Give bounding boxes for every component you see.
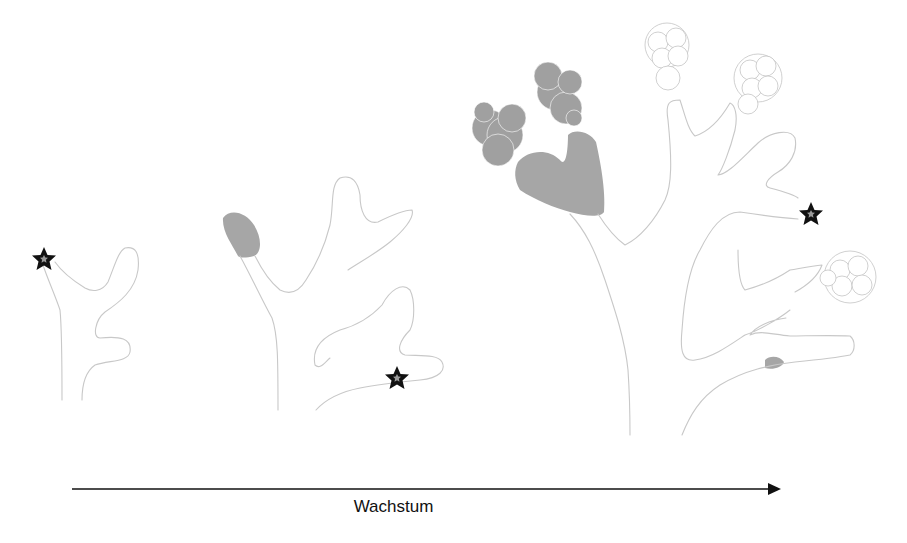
open-cell-cluster-top-right <box>734 54 782 114</box>
star-marker-icon <box>799 202 823 225</box>
growth-diagram <box>0 0 907 543</box>
open-cell-cluster-lower <box>820 251 876 303</box>
stage-1-branch <box>43 248 138 400</box>
filled-body <box>515 131 604 215</box>
filled-tip <box>223 212 260 257</box>
stage-2-branch <box>223 177 443 410</box>
filled-cell-cluster-left <box>472 102 526 166</box>
growth-arrow <box>72 483 781 495</box>
stage-3-branch <box>472 23 876 435</box>
arrow-head-icon <box>768 483 781 495</box>
open-cell-cluster-top-left <box>645 23 689 90</box>
star-marker-icon <box>385 366 409 389</box>
filled-cell-cluster-right <box>534 62 582 126</box>
arrow-label: Wachstum <box>354 497 434 516</box>
